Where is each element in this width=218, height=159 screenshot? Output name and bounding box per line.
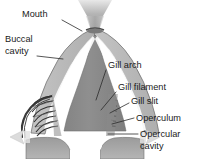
diagram-canvas: Mouth Buccal cavity Gill arch Gill filam… [0, 0, 218, 159]
outflow-arrow-left [10, 130, 30, 144]
label-operculum: Operculum [136, 113, 181, 123]
gill-anatomy-diagram: Mouth Buccal cavity Gill arch Gill filam… [0, 0, 218, 159]
mouth-leader [62, 20, 82, 31]
opercular-cavity-space [70, 142, 102, 159]
label-mouth: Mouth [22, 9, 48, 19]
label-buccal-cavity-line1: Buccal [5, 34, 33, 44]
buccal-cavity-leader [37, 56, 63, 59]
mouth-funnel [78, 0, 112, 31]
label-gill-filament: Gill filament [118, 82, 166, 92]
operculum-right-flap [100, 137, 144, 159]
label-opercular-cavity-line1: Opercular [140, 129, 180, 139]
operculum-left-flap [26, 137, 70, 159]
label-buccal-cavity-line2: cavity [5, 46, 29, 56]
label-gill-arch: Gill arch [108, 60, 142, 70]
label-opercular-cavity-line2: cavity [140, 141, 164, 151]
label-gill-slit: Gill slit [131, 96, 158, 106]
